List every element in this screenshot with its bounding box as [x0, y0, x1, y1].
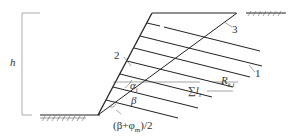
force-symbol: R	[221, 74, 228, 86]
label-alpha: αi	[130, 80, 138, 94]
label-sum-length: ∑li	[188, 85, 201, 99]
anchors	[106, 23, 262, 118]
label-beta: β	[131, 95, 136, 106]
label-2: 2	[114, 50, 120, 61]
ground-bottom-hatch	[40, 116, 86, 121]
sum-symbol: ∑l	[188, 84, 199, 96]
label-3: 3	[232, 24, 238, 35]
label-h: h	[10, 57, 16, 68]
alpha-subscript: i	[136, 86, 138, 94]
formula-suffix: )/2	[140, 119, 152, 131]
label-force: Rk,i	[221, 75, 235, 89]
label-1: 1	[255, 68, 261, 79]
sum-subscript: i	[199, 91, 201, 99]
force-subscript: k,i	[228, 81, 235, 89]
formula-prefix: (β+φ	[113, 119, 135, 131]
label-angle-formula: (β+φm)/2	[113, 120, 153, 134]
height-dimension	[22, 13, 40, 115]
slope-anchor-diagram	[0, 0, 297, 138]
